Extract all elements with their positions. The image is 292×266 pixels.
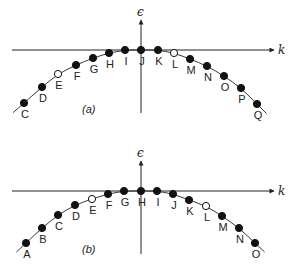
k-point-label: D: [39, 92, 47, 104]
k-point-label: C: [55, 220, 63, 232]
k-points-b: ABCDEFGHIJKLMNO: [22, 187, 260, 260]
k-point-j-filled: [169, 190, 176, 197]
k-point-label: Q: [254, 109, 263, 121]
k-point-n-filled: [235, 224, 242, 231]
k-point-label: B: [39, 233, 46, 245]
panel-a: k ϵ (a) CDEFGHIJKLMNOPQ: [12, 5, 285, 121]
k-point-e-empty: [54, 70, 61, 77]
k-point-label: J: [171, 199, 177, 211]
k-point-label: F: [106, 199, 113, 211]
k-point-i-filled: [121, 46, 128, 53]
k-point-label: A: [23, 248, 31, 260]
k-point-label: F: [74, 70, 81, 82]
k-point-o-filled: [220, 72, 227, 79]
k-point-f-filled: [72, 61, 79, 68]
k-point-label: E: [89, 204, 96, 216]
k-point-label: J: [139, 55, 145, 67]
k-point-label: C: [21, 108, 29, 120]
k-points-a: CDEFGHIJKLMNOPQ: [20, 46, 262, 121]
k-point-m-filled: [218, 212, 225, 219]
k-point-q-filled: [253, 100, 260, 107]
k-point-g-filled: [89, 54, 96, 61]
k-point-label: N: [236, 233, 244, 245]
k-point-label: M: [186, 64, 195, 76]
k-point-e-empty: [88, 195, 95, 202]
k-point-label: L: [172, 58, 178, 70]
k-point-d-filled: [38, 83, 45, 90]
k-point-label: O: [252, 248, 261, 260]
k-point-i-filled: [153, 187, 160, 194]
k-point-h-filled: [105, 49, 112, 56]
k-label-b: k: [278, 184, 285, 198]
k-point-a-filled: [22, 239, 29, 246]
k-point-label: G: [121, 196, 130, 208]
k-point-c-filled: [20, 99, 27, 106]
k-point-d-filled: [71, 201, 78, 208]
k-point-label: D: [72, 210, 80, 222]
k-point-k-filled: [185, 196, 192, 203]
panel-caption-b: (b): [82, 243, 96, 255]
k-point-label: H: [106, 58, 114, 70]
k-point-l-empty: [170, 49, 177, 56]
k-point-label: M: [218, 221, 227, 233]
k-point-p-filled: [237, 84, 244, 91]
epsilon-label-b: ϵ: [137, 146, 144, 160]
epsilon-label-a: ϵ: [137, 5, 144, 19]
k-point-j-filled: [137, 46, 144, 53]
k-point-f-filled: [104, 190, 111, 197]
k-point-label: G: [90, 63, 99, 75]
k-point-b-filled: [38, 224, 45, 231]
k-point-label: K: [186, 205, 194, 217]
k-point-label: E: [55, 79, 62, 91]
k-point-c-filled: [54, 211, 61, 218]
k-point-label: K: [155, 55, 163, 67]
k-point-h-filled: [137, 187, 144, 194]
k-point-k-filled: [154, 46, 161, 53]
k-point-label: L: [204, 211, 210, 223]
k-point-label: N: [204, 71, 212, 83]
k-point-g-filled: [120, 187, 127, 194]
k-point-label: O: [221, 81, 230, 93]
k-label-a: k: [278, 43, 285, 57]
k-point-m-filled: [186, 55, 193, 62]
k-point-label: P: [238, 93, 245, 105]
k-point-o-filled: [251, 239, 258, 246]
k-point-n-filled: [203, 62, 210, 69]
k-point-label: I: [124, 55, 127, 67]
k-point-l-empty: [202, 202, 209, 209]
band-diagram: k ϵ (a) CDEFGHIJKLMNOPQ k ϵ (b) ABCDEFGH…: [0, 0, 292, 266]
panel-b: k ϵ (b) ABCDEFGHIJKLMNO: [12, 146, 285, 260]
k-point-label: I: [156, 196, 159, 208]
k-point-label: H: [138, 196, 146, 208]
panel-caption-a: (a): [82, 103, 96, 115]
